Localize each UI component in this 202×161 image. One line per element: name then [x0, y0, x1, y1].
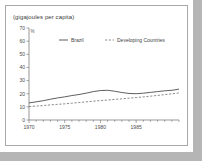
y-axis-tick-label: 10 — [19, 104, 25, 110]
y-axis-tick-label: 50 — [19, 51, 25, 57]
page-background: (gigajoules per capita) % 01020304050607… — [0, 0, 202, 161]
legend-item-developing-countries-label: Developing Countries — [117, 37, 165, 43]
line-chart: % 010203040506070 1970197519801985 Brazi… — [13, 22, 181, 134]
x-axis-tick-label: 1980 — [95, 124, 106, 130]
x-axis-tick-label: 1970 — [23, 124, 34, 130]
y-axis-percent-marker: % — [31, 29, 35, 34]
y-axis-tick-label: 40 — [19, 64, 25, 70]
y-axis-tick-label: 30 — [19, 77, 25, 83]
paper-sheet: (gigajoules per capita) % 01020304050607… — [0, 0, 193, 152]
x-axis-ticks: 1970197519801985 — [23, 120, 179, 130]
y-axis-tick-label: 0 — [22, 117, 25, 123]
y-axis-ticks: 010203040506070 — [19, 25, 29, 123]
page-right-shadow — [193, 0, 202, 152]
chart-series-group — [29, 89, 179, 106]
series-line-developing-countries — [29, 93, 179, 107]
chart-plot-area: % 010203040506070 1970197519801985 Brazi… — [13, 22, 181, 134]
chart-axis-unit-title: (gigajoules per capita) — [13, 14, 74, 20]
series-line-brazil — [29, 89, 179, 103]
y-axis-tick-label: 70 — [19, 25, 25, 31]
page-bottom-shadow — [0, 152, 202, 161]
x-axis-tick-label: 1975 — [59, 124, 70, 130]
y-axis-tick-label: 20 — [19, 91, 25, 97]
x-axis-tick-label: 1985 — [131, 124, 142, 130]
y-axis-tick-label: 60 — [19, 38, 25, 44]
legend-item-brazil-label: Brazil — [71, 37, 84, 43]
chart-legend: BrazilDeveloping Countries — [59, 37, 165, 43]
